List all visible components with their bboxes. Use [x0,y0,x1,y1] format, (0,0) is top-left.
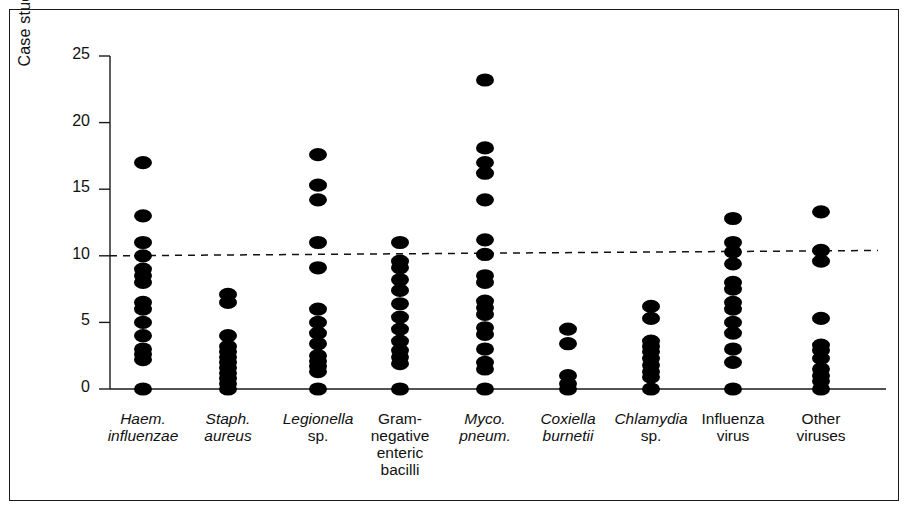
data-point [309,302,327,315]
y-tick-label-20: 20 [56,112,90,130]
data-point [391,357,409,370]
data-point [391,236,409,249]
data-point [476,233,494,246]
data-point [309,382,327,395]
x-category-label-8: Otherviruses [769,410,873,444]
data-point [391,382,409,395]
data-point [642,382,660,395]
data-point [476,362,494,375]
data-point [309,179,327,192]
data-point [391,322,409,335]
data-point [724,382,742,395]
data-point [309,148,327,161]
data-point [476,328,494,341]
data-point [724,326,742,339]
data-point [309,365,327,378]
x-category-label-line: enteric [348,444,452,461]
data-point [559,337,577,350]
data-point [134,276,152,289]
data-point [391,261,409,274]
data-series-5 [559,322,577,395]
data-series-0 [134,156,152,396]
data-point [559,322,577,335]
data-point [134,382,152,395]
data-point [134,353,152,366]
data-point [642,300,660,313]
x-category-label-1: Staph.aureus [176,410,280,444]
data-point [391,297,409,310]
data-point [134,329,152,342]
data-point [724,257,742,270]
data-point [134,156,152,169]
data-point [476,193,494,206]
data-point [642,312,660,325]
data-series-7 [724,212,742,396]
data-point [724,302,742,315]
data-point [812,255,830,268]
data-point [476,167,494,180]
y-tick-label-15: 15 [56,178,90,196]
x-category-label-line: bacilli [348,461,452,478]
data-point [724,283,742,296]
data-series-1 [219,288,237,396]
data-point [309,193,327,206]
data-series-3 [391,236,409,396]
data-point [476,382,494,395]
data-point [134,249,152,262]
data-series-6 [642,300,660,396]
data-point [309,337,327,350]
data-point [391,310,409,323]
x-category-label-line: Other [769,410,873,427]
data-point [812,312,830,325]
y-tick-label-5: 5 [56,311,90,329]
data-point [219,296,237,309]
axis-lines [99,56,886,389]
data-point [724,342,742,355]
data-point [476,342,494,355]
x-category-label-line: viruses [769,427,873,444]
data-point [391,284,409,297]
x-category-label-line: Staph. [176,410,280,427]
data-point [724,212,742,225]
data-series-8 [812,205,830,395]
data-point [476,141,494,154]
data-point [642,370,660,383]
data-point [134,236,152,249]
y-tick-label-10: 10 [56,245,90,263]
data-point [724,245,742,258]
data-point [219,382,237,395]
data-point [812,205,830,218]
data-series-4 [476,73,494,395]
x-category-label-line: aureus [176,427,280,444]
data-point [476,248,494,261]
data-point [134,316,152,329]
data-series-2 [309,148,327,396]
data-point [812,382,830,395]
data-point [309,236,327,249]
data-point [134,209,152,222]
data-point [476,308,494,321]
data-point [476,73,494,86]
data-point [559,382,577,395]
data-point [309,261,327,274]
y-tick-label-0: 0 [56,378,90,396]
data-point [134,302,152,315]
y-tick-label-25: 25 [56,45,90,63]
data-point [724,356,742,369]
reference-line [110,250,878,255]
data-point [476,276,494,289]
